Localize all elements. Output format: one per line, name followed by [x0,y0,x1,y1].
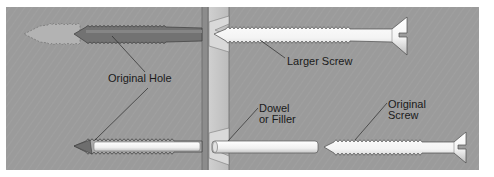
label-dowel-line2: or Filler [259,114,296,125]
label-dowel-or-filler: Dowel or Filler [259,103,296,125]
label-larger-screw: Larger Screw [287,56,352,67]
label-original-hole: Original Hole [108,73,172,84]
original-hole-filled [74,139,202,154]
label-original-screw: Original Screw [388,99,426,121]
original-hole-top [74,26,202,44]
dowel [212,141,318,153]
screw-repair-diagram: Original Hole Larger Screw Dowel or Fill… [0,0,494,177]
diagram-canvas [0,0,494,177]
label-original-screw-line2: Screw [388,110,426,121]
